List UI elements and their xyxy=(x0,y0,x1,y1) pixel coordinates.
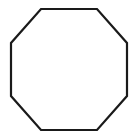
octagon-shape xyxy=(11,9,127,130)
drawing-canvas xyxy=(0,0,138,139)
octagon-svg xyxy=(0,0,138,139)
